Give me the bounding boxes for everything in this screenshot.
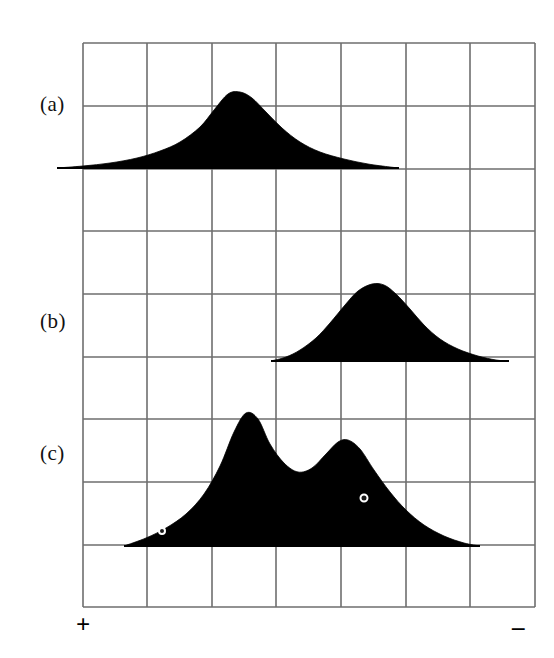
data-dot-left-icon	[159, 528, 165, 534]
curves-layer	[57, 92, 509, 546]
panel-label-a: (a)	[40, 92, 65, 117]
negative-sign: –	[512, 614, 525, 639]
distribution-curve-b	[271, 283, 509, 361]
panel-label-b: (b)	[40, 309, 66, 334]
distribution-plot	[0, 0, 554, 658]
distribution-curve-a	[57, 92, 399, 168]
figure-root: (a) (b) (c) + –	[0, 0, 554, 658]
distribution-curve-c	[124, 412, 480, 546]
panel-label-c: (c)	[40, 441, 65, 466]
positive-sign: +	[76, 612, 90, 637]
data-dot-right-icon	[361, 495, 368, 502]
